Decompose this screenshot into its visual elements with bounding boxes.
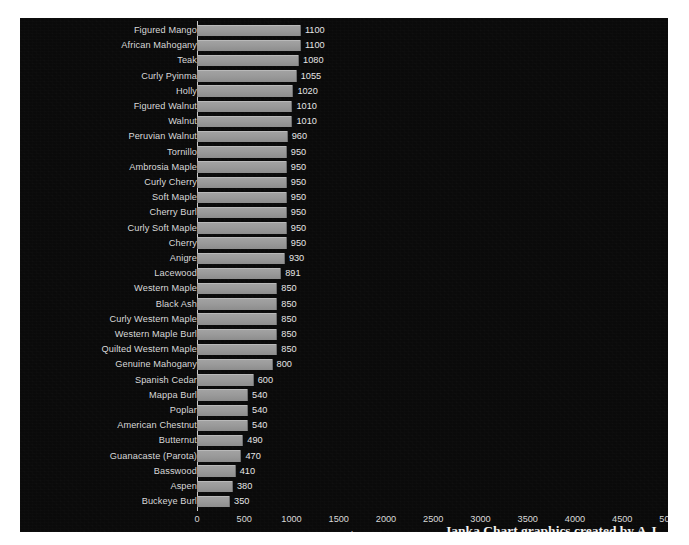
bar[interactable] bbox=[197, 298, 277, 309]
bar[interactable] bbox=[197, 161, 287, 172]
category-label: Curly Western Maple bbox=[109, 312, 197, 327]
bar-track bbox=[197, 283, 277, 294]
bar-value-label: 540 bbox=[252, 418, 267, 433]
bar[interactable] bbox=[197, 70, 297, 81]
bar-row: Curly Soft Maple950 bbox=[20, 221, 668, 236]
bar-track bbox=[197, 329, 277, 340]
category-label: American Chestnut bbox=[117, 418, 197, 433]
bar[interactable] bbox=[197, 146, 287, 157]
bar-value-label: 891 bbox=[285, 266, 300, 281]
category-label: Mappa Burl bbox=[149, 388, 197, 403]
bar-value-label: 850 bbox=[281, 297, 296, 312]
bar[interactable] bbox=[197, 101, 292, 112]
category-label: Peruvian Walnut bbox=[128, 129, 197, 144]
bar[interactable] bbox=[197, 344, 277, 355]
category-label: Cherry bbox=[169, 236, 197, 251]
bar-track bbox=[197, 450, 241, 461]
bar[interactable] bbox=[197, 268, 281, 279]
bar-value-label: 950 bbox=[291, 221, 306, 236]
bar[interactable] bbox=[197, 237, 287, 248]
x-tick-label: 1500 bbox=[329, 511, 349, 527]
bar-row: Figured Walnut1010 bbox=[20, 99, 668, 114]
bar-value-label: 600 bbox=[258, 373, 273, 388]
bar-row: Cherry Burl950 bbox=[20, 205, 668, 220]
bar-track bbox=[197, 313, 277, 324]
chart-screenshot: Figured Mango1100African Mahogany1100Tea… bbox=[0, 0, 689, 545]
category-label: Genuine Mahogany bbox=[115, 357, 197, 372]
category-label: Western Maple Burl bbox=[115, 327, 197, 342]
bar-row: Mappa Burl540 bbox=[20, 388, 668, 403]
bar-row: Guanacaste (Parota)470 bbox=[20, 449, 668, 464]
bar[interactable] bbox=[197, 85, 293, 96]
bar-value-label: 850 bbox=[281, 312, 296, 327]
category-label: Black Ash bbox=[156, 297, 197, 312]
bar-row: Soft Maple950 bbox=[20, 190, 668, 205]
bar[interactable] bbox=[197, 359, 273, 370]
bar[interactable] bbox=[197, 313, 277, 324]
bar-row: Butternut490 bbox=[20, 433, 668, 448]
bar[interactable] bbox=[197, 435, 243, 446]
bar-value-label: 950 bbox=[291, 190, 306, 205]
bar-value-label: 1100 bbox=[305, 23, 325, 38]
bar[interactable] bbox=[197, 253, 285, 264]
category-label: Figured Mango bbox=[134, 23, 197, 38]
category-label: Ambrosia Maple bbox=[129, 160, 197, 175]
bar-track bbox=[197, 389, 248, 400]
category-label: Tornillo bbox=[167, 145, 197, 160]
bar-row: Lacewood891 bbox=[20, 266, 668, 281]
bar-row: Buckeye Burl350 bbox=[20, 494, 668, 509]
bar-row: Teak1080 bbox=[20, 53, 668, 68]
bar[interactable] bbox=[197, 450, 241, 461]
bar[interactable] bbox=[197, 374, 254, 385]
bar[interactable] bbox=[197, 496, 230, 507]
category-label: Figured Walnut bbox=[134, 99, 197, 114]
bar-value-label: 1010 bbox=[296, 99, 316, 114]
bar[interactable] bbox=[197, 131, 288, 142]
bar[interactable] bbox=[197, 420, 248, 431]
bar-value-label: 1020 bbox=[297, 84, 317, 99]
bar[interactable] bbox=[197, 389, 248, 400]
bar-row: Aspen380 bbox=[20, 479, 668, 494]
bar[interactable] bbox=[197, 116, 292, 127]
category-label: Guanacaste (Parota) bbox=[110, 449, 197, 464]
bar-value-label: 950 bbox=[291, 160, 306, 175]
bar-row: Basswood410 bbox=[20, 464, 668, 479]
bar-track bbox=[197, 116, 292, 127]
bar-row: Ambrosia Maple950 bbox=[20, 160, 668, 175]
bar[interactable] bbox=[197, 329, 277, 340]
bar[interactable] bbox=[197, 55, 299, 66]
category-label: Poplar bbox=[170, 403, 197, 418]
bar-track bbox=[197, 192, 287, 203]
bar[interactable] bbox=[197, 192, 287, 203]
bar-row: Peruvian Walnut960 bbox=[20, 129, 668, 144]
bar-value-label: 1100 bbox=[305, 38, 325, 53]
bar-row: Western Maple850 bbox=[20, 281, 668, 296]
category-label: African Mahogany bbox=[121, 38, 197, 53]
bar-row: Genuine Mahogany800 bbox=[20, 357, 668, 372]
bar-value-label: 380 bbox=[237, 479, 252, 494]
bar[interactable] bbox=[197, 40, 301, 51]
plot-area: Figured Mango1100African Mahogany1100Tea… bbox=[20, 18, 668, 532]
bar-track bbox=[197, 344, 277, 355]
category-label: Buckeye Burl bbox=[142, 494, 197, 509]
bar-row: Tornillo950 bbox=[20, 145, 668, 160]
bar-track bbox=[197, 85, 293, 96]
bar[interactable] bbox=[197, 405, 248, 416]
bar[interactable] bbox=[197, 283, 277, 294]
chart-panel: Figured Mango1100African Mahogany1100Tea… bbox=[20, 18, 668, 532]
bar[interactable] bbox=[197, 25, 301, 36]
bar-value-label: 350 bbox=[234, 494, 249, 509]
bar-track bbox=[197, 237, 287, 248]
bar[interactable] bbox=[197, 465, 236, 476]
bar[interactable] bbox=[197, 207, 287, 218]
bar-value-label: 800 bbox=[277, 357, 292, 372]
category-label: Curly Soft Maple bbox=[127, 221, 197, 236]
bar[interactable] bbox=[197, 177, 287, 188]
bar-track bbox=[197, 420, 248, 431]
x-tick-label: 2000 bbox=[376, 511, 396, 527]
bar-track bbox=[197, 207, 287, 218]
bar[interactable] bbox=[197, 481, 233, 492]
bar[interactable] bbox=[197, 222, 287, 233]
bar-track bbox=[197, 481, 233, 492]
category-label: Teak bbox=[177, 53, 197, 68]
